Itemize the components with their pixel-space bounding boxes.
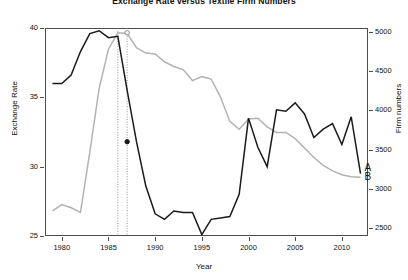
y-tick-right: 2500 — [375, 223, 405, 232]
x-tick: 1985 — [93, 243, 123, 252]
tick-mark — [108, 237, 109, 241]
plot-series-layer — [45, 28, 368, 236]
tick-mark — [369, 228, 373, 229]
tick-mark — [40, 236, 44, 237]
y-axis-right-label: Firm numbers — [394, 69, 403, 149]
x-tick: 2000 — [234, 243, 264, 252]
y-tick-left: 25 — [16, 231, 38, 240]
x-tick: 1980 — [47, 243, 77, 252]
chart-title: Exchange Rate versus Textile Firm Number… — [0, 0, 408, 6]
tick-mark — [369, 71, 373, 72]
tick-mark — [249, 237, 250, 241]
series-line-b — [52, 33, 360, 213]
series-label-b: B — [365, 171, 372, 182]
series-line-a — [52, 31, 360, 235]
tick-mark — [40, 28, 44, 29]
tick-mark — [369, 32, 373, 33]
tick-mark — [62, 237, 63, 241]
tick-mark — [342, 237, 343, 241]
tick-mark — [40, 97, 44, 98]
y-tick-right: 5000 — [375, 27, 405, 36]
tick-mark — [369, 189, 373, 190]
y-tick-right: 3000 — [375, 184, 405, 193]
tick-mark — [40, 167, 44, 168]
y-axis-left-label: Exchange Rate — [10, 69, 19, 149]
annotation-point-a — [125, 140, 129, 144]
tick-mark — [155, 237, 156, 241]
tick-mark — [295, 237, 296, 241]
chart-root: Exchange Rate versus Textile Firm Number… — [0, 0, 408, 280]
tick-mark — [369, 110, 373, 111]
tick-mark — [202, 237, 203, 241]
x-axis-label: Year — [0, 262, 408, 271]
tick-mark — [369, 150, 373, 151]
x-tick: 1990 — [140, 243, 170, 252]
x-tick: 2005 — [280, 243, 310, 252]
y-tick-left: 40 — [16, 23, 38, 32]
x-tick: 1995 — [187, 243, 217, 252]
y-tick-left: 30 — [16, 162, 38, 171]
x-tick: 2010 — [327, 243, 357, 252]
y-tick-left: 35 — [16, 92, 38, 101]
annotation-point-b — [125, 31, 129, 35]
